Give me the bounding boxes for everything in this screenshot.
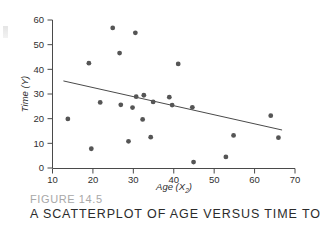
y-axis-title: Time (Y) [19, 76, 30, 112]
x-axis-title-close: ) [188, 181, 192, 192]
data-point [133, 30, 138, 35]
y-tick-label: 10 [33, 138, 44, 149]
x-axis-title-main: Age (X [155, 181, 186, 192]
data-point [110, 25, 115, 30]
data-point [151, 99, 156, 104]
x-tick-label: 30 [128, 174, 139, 185]
scatterplot: 0102030405060 10203040506070 Time (Y) Ag… [0, 0, 321, 200]
data-point [167, 95, 172, 100]
data-point [140, 117, 145, 122]
figure-number: FIGURE 14.5 [30, 193, 320, 206]
y-tick-label: 40 [33, 64, 44, 75]
data-point [126, 139, 131, 144]
x-tick-label: 50 [209, 174, 220, 185]
y-tick-label: 60 [33, 14, 44, 25]
data-point [276, 135, 281, 140]
x-tick-label: 60 [249, 174, 260, 185]
data-point [134, 94, 139, 99]
data-point [117, 51, 122, 56]
data-point [148, 135, 153, 140]
data-point [86, 61, 91, 66]
data-point [98, 100, 103, 105]
x-tick-label: 70 [290, 174, 301, 185]
data-point [65, 117, 70, 122]
figure-caption: FIGURE 14.5 A SCATTERPLOT OF AGE VERSUS … [30, 193, 320, 222]
figure-title: A SCATTERPLOT OF AGE VERSUS TIME TO RELI… [30, 207, 320, 222]
data-point [89, 146, 94, 151]
data-point [141, 93, 146, 98]
x-tick-label: 10 [47, 174, 58, 185]
data-point [191, 160, 196, 165]
data-point [268, 113, 273, 118]
data-point [130, 105, 135, 110]
data-point [170, 103, 175, 108]
y-tick-label: 30 [33, 88, 44, 99]
data-point [231, 133, 236, 138]
y-tick-label: 0 [39, 162, 44, 173]
y-axis: 0102030405060 [33, 14, 52, 173]
data-point [118, 102, 123, 107]
data-point [176, 62, 181, 67]
y-tick-label: 20 [33, 113, 44, 124]
data-points [65, 25, 280, 164]
y-tick-label: 50 [33, 39, 44, 50]
data-point [190, 105, 195, 110]
x-tick-label: 20 [88, 174, 99, 185]
data-point [223, 155, 228, 160]
y-axis-ticks: 0102030405060 [33, 14, 52, 173]
figure-container: 0102030405060 10203040506070 Time (Y) Ag… [0, 0, 321, 232]
